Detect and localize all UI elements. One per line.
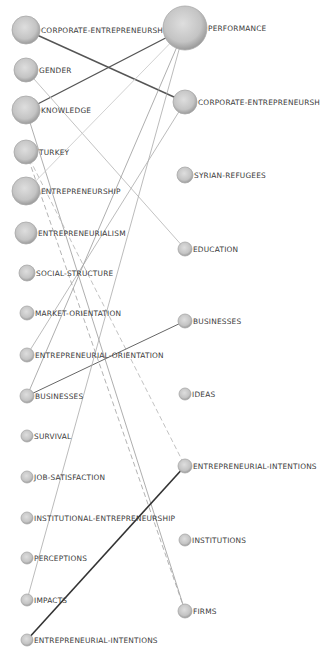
node-label: ENTREPRENEURIALISM (38, 229, 126, 238)
node-circle[interactable] (173, 90, 197, 114)
right-node[interactable]: BUSINESSES (178, 314, 241, 328)
node-label: EDUCATION (193, 245, 238, 254)
node-label: BUSINESSES (35, 392, 83, 401)
edges-layer (26, 28, 185, 640)
right-node[interactable]: ENTREPRENEURIAL-INTENTIONS (178, 459, 317, 473)
node-circle[interactable] (12, 96, 40, 124)
node-label: INSTITUTIONS (192, 536, 246, 545)
node-circle[interactable] (20, 306, 34, 320)
node-circle[interactable] (21, 594, 33, 606)
node-circle[interactable] (21, 634, 33, 646)
node-circle[interactable] (179, 534, 191, 546)
left-node[interactable]: IMPACTS (21, 594, 67, 606)
node-circle[interactable] (14, 140, 38, 164)
right-node[interactable]: INSTITUTIONS (179, 534, 246, 546)
node-label: GENDER (39, 66, 72, 75)
node-circle[interactable] (179, 388, 191, 400)
node-circle[interactable] (178, 459, 192, 473)
left-node[interactable]: KNOWLEDGE (12, 96, 91, 124)
edge-L3-R9 (26, 110, 185, 611)
edge-L10-R1 (27, 28, 185, 396)
left-node[interactable]: MARKET-ORIENTATION (20, 306, 121, 320)
node-label: PERFORMANCE (208, 24, 267, 33)
left-node[interactable]: ENTREPRENEURIAL-INTENTIONS (21, 634, 158, 646)
node-label: SOCIAL-STRUCTURE (36, 269, 114, 278)
edge-L4-R9 (26, 152, 185, 611)
node-circle[interactable] (20, 389, 34, 403)
node-circle[interactable] (15, 222, 37, 244)
node-circle[interactable] (20, 348, 34, 362)
node-label: KNOWLEDGE (41, 106, 91, 115)
node-label: INSTITUTIONAL-ENTREPRENEURSHIP (34, 514, 176, 523)
node-circle[interactable] (21, 512, 33, 524)
left-node[interactable]: SURVIVAL (21, 430, 72, 442)
node-label: TURKEY (38, 148, 70, 157)
node-label: SURVIVAL (34, 432, 72, 441)
node-label: IMPACTS (34, 596, 67, 605)
node-circle[interactable] (14, 58, 38, 82)
node-circle[interactable] (21, 430, 33, 442)
node-label: ENTREPRENEURIAL-INTENTIONS (193, 462, 317, 471)
node-label: MARKET-ORIENTATION (35, 309, 121, 318)
node-label: SYRIAN-REFUGEES (194, 171, 266, 180)
node-circle[interactable] (177, 167, 193, 183)
keyword-network-diagram: CORPORATE-ENTREPRENEURSHGENDERKNOWLEDGET… (0, 0, 330, 655)
node-circle[interactable] (163, 6, 207, 50)
left-node[interactable]: BUSINESSES (20, 389, 83, 403)
right-node[interactable]: PERFORMANCE (163, 6, 267, 50)
node-label: BUSINESSES (193, 317, 241, 326)
left-node[interactable]: JOB-SATISFACTION (21, 471, 105, 483)
node-circle[interactable] (21, 471, 33, 483)
left-node[interactable]: ENTREPRENEURIAL-ORIENTATION (20, 348, 164, 362)
node-label: ENTREPRENEURSHIP (41, 187, 121, 196)
left-node[interactable]: PERCEPTIONS (21, 552, 87, 564)
left-node[interactable]: CORPORATE-ENTREPRENEURSH (12, 16, 163, 44)
node-label: IDEAS (192, 390, 215, 399)
nodes-layer: CORPORATE-ENTREPRENEURSHGENDERKNOWLEDGET… (12, 6, 320, 646)
right-node[interactable]: CORPORATE-ENTREPRENEURSH (173, 90, 320, 114)
right-node[interactable]: SYRIAN-REFUGEES (177, 167, 266, 183)
node-label: JOB-SATISFACTION (33, 473, 105, 482)
node-label: CORPORATE-ENTREPRENEURSH (41, 26, 163, 35)
node-circle[interactable] (12, 16, 40, 44)
left-node[interactable]: ENTREPRENEURSHIP (12, 177, 121, 205)
right-node[interactable]: IDEAS (179, 388, 215, 400)
left-node[interactable]: ENTREPRENEURIALISM (15, 222, 126, 244)
node-label: CORPORATE-ENTREPRENEURSH (198, 98, 320, 107)
node-circle[interactable] (12, 177, 40, 205)
right-node[interactable]: EDUCATION (178, 242, 238, 256)
node-circle[interactable] (178, 314, 192, 328)
node-circle[interactable] (178, 604, 192, 618)
node-circle[interactable] (178, 242, 192, 256)
node-label: ENTREPRENEURIAL-INTENTIONS (34, 636, 158, 645)
node-label: FIRMS (193, 607, 217, 616)
node-circle[interactable] (21, 552, 33, 564)
node-label: ENTREPRENEURIAL-ORIENTATION (35, 351, 164, 360)
left-node[interactable]: GENDER (14, 58, 72, 82)
node-label: PERCEPTIONS (34, 554, 87, 563)
left-node[interactable]: INSTITUTIONAL-ENTREPRENEURSHIP (21, 512, 176, 524)
right-node[interactable]: FIRMS (178, 604, 217, 618)
node-circle[interactable] (19, 265, 35, 281)
